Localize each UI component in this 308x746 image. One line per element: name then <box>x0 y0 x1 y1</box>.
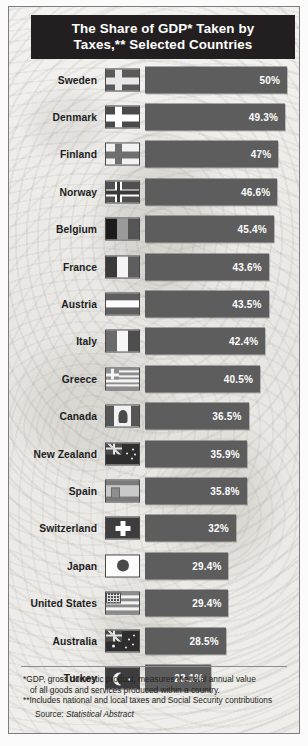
value-label: 40.5% <box>224 373 260 384</box>
value-bar: 50% <box>145 66 287 93</box>
bar-row: Australia28.5% <box>9 622 299 659</box>
country-label: Finland <box>9 149 97 160</box>
country-label: Denmark <box>9 112 97 123</box>
source-name: Statistical Abstract <box>66 709 134 719</box>
bar-row: Sweden50% <box>9 61 299 98</box>
flag-united-states-icon <box>105 592 140 615</box>
value-bar: 28.5% <box>145 627 226 654</box>
value-label: 49.3% <box>249 112 285 123</box>
country-label: Switzerland <box>9 523 97 534</box>
value-bar: 36.5% <box>145 403 249 430</box>
flag-spain-icon <box>105 479 140 502</box>
value-bar: 43.5% <box>145 291 269 318</box>
flag-japan-icon <box>105 554 140 577</box>
value-label: 43.6% <box>232 261 268 272</box>
chart-title-bar: The Share of GDP* Taken by Taxes,** Sele… <box>31 15 295 59</box>
country-label: Norway <box>9 186 97 197</box>
bar-row: Greece40.5% <box>9 360 299 397</box>
country-label: Italy <box>9 336 97 347</box>
footnote-divider <box>21 666 287 667</box>
value-label: 36.5% <box>212 411 248 422</box>
footnote-gdp-line2: of all goods and services produced withi… <box>23 685 285 695</box>
flag-norway-icon <box>105 180 140 203</box>
title-line-1: The Share of GDP* Taken by <box>72 21 254 36</box>
country-label: Australia <box>9 635 97 646</box>
value-bar: 29.4% <box>145 590 228 617</box>
footnotes: *GDP, gross domestic product, measures t… <box>9 674 299 719</box>
flag-canada-icon <box>105 405 140 428</box>
value-bar: 29.4% <box>145 552 228 579</box>
bar-row: Japan29.4% <box>9 547 299 584</box>
footnote-gdp-line1: *GDP, gross domestic product, measures t… <box>23 674 285 684</box>
bar-row: Austria43.5% <box>9 285 299 322</box>
title-line-2: Taxes,** Selected Countries <box>74 37 253 52</box>
country-label: France <box>9 261 97 272</box>
value-label: 46.6% <box>241 186 277 197</box>
bar-row: Norway46.6% <box>9 173 299 210</box>
flag-australia-icon <box>105 629 140 652</box>
value-bar: 45.4% <box>145 216 274 243</box>
value-bar: 40.5% <box>145 365 260 392</box>
flag-italy-icon <box>105 330 140 353</box>
bar-row: Canada36.5% <box>9 398 299 435</box>
value-label: 47% <box>251 149 279 160</box>
source-prefix: Source: <box>35 709 66 719</box>
bar-row: Denmark49.3% <box>9 98 299 135</box>
value-label: 28.5% <box>190 635 226 646</box>
country-label: Sweden <box>9 74 97 85</box>
value-bar: 49.3% <box>145 104 285 131</box>
value-bar: 42.4% <box>145 328 265 355</box>
country-label: Belgium <box>9 224 97 235</box>
flag-belgium-icon <box>105 218 140 241</box>
source-line: Source: Statistical Abstract <box>23 709 285 719</box>
country-label: Spain <box>9 485 97 496</box>
bar-row: Switzerland32% <box>9 510 299 547</box>
bar-row: Belgium45.4% <box>9 211 299 248</box>
country-label: United States <box>9 598 97 609</box>
flag-sweden-icon <box>105 68 140 91</box>
chart-panel: The Share of GDP* Taken by Taxes,** Sele… <box>8 6 300 734</box>
bar-row: France43.6% <box>9 248 299 285</box>
value-bar: 43.6% <box>145 253 269 280</box>
value-bar: 35.9% <box>145 440 247 467</box>
page-title: The Share of GDP* Taken by Taxes,** Sele… <box>72 21 254 54</box>
value-label: 35.8% <box>210 485 246 496</box>
bar-row: New Zealand35.9% <box>9 435 299 472</box>
bar-row: Italy42.4% <box>9 323 299 360</box>
bar-row: Finland47% <box>9 136 299 173</box>
flag-austria-icon <box>105 293 140 316</box>
value-bar: 35.8% <box>145 477 247 504</box>
value-label: 29.4% <box>192 560 228 571</box>
country-label: Greece <box>9 373 97 384</box>
bar-row: Spain35.8% <box>9 472 299 509</box>
value-label: 32% <box>208 523 236 534</box>
flag-new-zealand-icon <box>105 442 140 465</box>
value-bar: 46.6% <box>145 178 277 205</box>
value-bar: 47% <box>145 141 278 168</box>
flag-switzerland-icon <box>105 517 140 540</box>
country-label: Canada <box>9 411 97 422</box>
value-label: 43.5% <box>232 299 268 310</box>
bar-row: United States29.4% <box>9 584 299 621</box>
country-label: Austria <box>9 299 97 310</box>
flag-france-icon <box>105 255 140 278</box>
flag-denmark-icon <box>105 106 140 129</box>
footnote-taxes: **Includes national and local taxes and … <box>23 695 285 705</box>
flag-finland-icon <box>105 143 140 166</box>
value-label: 42.4% <box>229 336 265 347</box>
value-label: 45.4% <box>238 224 274 235</box>
value-label: 35.9% <box>211 448 247 459</box>
bar-rows: Sweden50%Denmark49.3%Finland47%Norway46.… <box>9 61 299 697</box>
flag-greece-icon <box>105 367 140 390</box>
country-label: Japan <box>9 560 97 571</box>
infographic-root: The Share of GDP* Taken by Taxes,** Sele… <box>0 0 308 746</box>
value-bar: 32% <box>145 515 236 542</box>
value-label: 29.4% <box>192 598 228 609</box>
value-label: 50% <box>259 74 287 85</box>
country-label: New Zealand <box>9 448 97 459</box>
